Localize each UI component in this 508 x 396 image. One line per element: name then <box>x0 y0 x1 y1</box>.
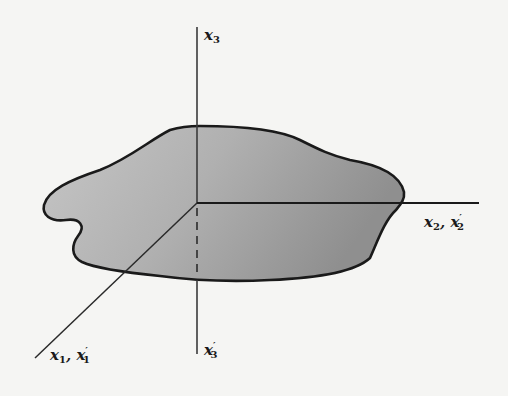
x3-axis-label: x3 <box>204 26 220 45</box>
x2-axis-label: x2, x′2 <box>424 212 464 232</box>
x1-axis-label: x1, x′1 <box>50 345 90 365</box>
diagram-canvas: x3 x2, x′2 x1, x′1 x′3 <box>0 0 508 396</box>
x3prime-axis-label: x′3 <box>204 340 218 360</box>
axes-and-region <box>0 0 508 396</box>
